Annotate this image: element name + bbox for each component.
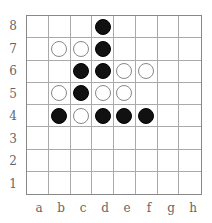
square-e7[interactable] — [114, 38, 136, 60]
square-f6[interactable] — [136, 61, 158, 83]
square-c4[interactable] — [71, 105, 93, 127]
square-c2[interactable] — [71, 150, 93, 172]
black-stone-icon — [95, 41, 111, 57]
square-a6[interactable] — [27, 61, 49, 83]
black-stone-icon — [73, 63, 89, 79]
file-label: c — [72, 201, 94, 215]
square-d7[interactable] — [92, 38, 114, 60]
square-g2[interactable] — [158, 150, 180, 172]
rank-label: 7 — [8, 42, 18, 56]
square-a7[interactable] — [27, 38, 49, 60]
rank-label: 8 — [8, 19, 18, 33]
white-stone-icon — [73, 108, 89, 124]
square-b7[interactable] — [49, 38, 71, 60]
square-h6[interactable] — [179, 61, 201, 83]
file-label: d — [94, 201, 116, 215]
square-b3[interactable] — [49, 127, 71, 149]
square-g6[interactable] — [158, 61, 180, 83]
square-b6[interactable] — [49, 61, 71, 83]
white-stone-icon — [51, 85, 67, 101]
black-stone-icon — [95, 19, 111, 35]
square-c5[interactable] — [71, 83, 93, 105]
square-f2[interactable] — [136, 150, 158, 172]
file-label: g — [160, 201, 182, 215]
square-c1[interactable] — [71, 172, 93, 194]
square-e1[interactable] — [114, 172, 136, 194]
square-a2[interactable] — [27, 150, 49, 172]
square-b8[interactable] — [49, 16, 71, 38]
square-a4[interactable] — [27, 105, 49, 127]
square-c8[interactable] — [71, 16, 93, 38]
square-d1[interactable] — [92, 172, 114, 194]
square-a8[interactable] — [27, 16, 49, 38]
white-stone-icon — [73, 41, 89, 57]
rank-label: 4 — [8, 109, 18, 123]
black-stone-icon — [116, 108, 132, 124]
square-e5[interactable] — [114, 83, 136, 105]
square-c3[interactable] — [71, 127, 93, 149]
rank-label: 1 — [8, 177, 18, 191]
square-c7[interactable] — [71, 38, 93, 60]
square-h1[interactable] — [179, 172, 201, 194]
square-a1[interactable] — [27, 172, 49, 194]
square-b4[interactable] — [49, 105, 71, 127]
file-label: b — [50, 201, 72, 215]
square-g5[interactable] — [158, 83, 180, 105]
square-f4[interactable] — [136, 105, 158, 127]
black-stone-icon — [51, 108, 67, 124]
square-a5[interactable] — [27, 83, 49, 105]
square-e4[interactable] — [114, 105, 136, 127]
game-board — [26, 15, 202, 195]
file-label: f — [138, 201, 160, 215]
file-label: a — [28, 201, 50, 215]
square-f5[interactable] — [136, 83, 158, 105]
square-g7[interactable] — [158, 38, 180, 60]
square-c6[interactable] — [71, 61, 93, 83]
square-h5[interactable] — [179, 83, 201, 105]
square-b5[interactable] — [49, 83, 71, 105]
black-stone-icon — [95, 108, 111, 124]
square-h8[interactable] — [179, 16, 201, 38]
rank-label: 2 — [8, 154, 18, 168]
square-g4[interactable] — [158, 105, 180, 127]
square-f7[interactable] — [136, 38, 158, 60]
white-stone-icon — [95, 85, 111, 101]
white-stone-icon — [138, 63, 154, 79]
square-h3[interactable] — [179, 127, 201, 149]
square-a3[interactable] — [27, 127, 49, 149]
black-stone-icon — [95, 63, 111, 79]
white-stone-icon — [116, 85, 132, 101]
square-d3[interactable] — [92, 127, 114, 149]
square-f3[interactable] — [136, 127, 158, 149]
square-g1[interactable] — [158, 172, 180, 194]
file-label: h — [182, 201, 204, 215]
rank-label: 3 — [8, 132, 18, 146]
square-e8[interactable] — [114, 16, 136, 38]
rank-label: 5 — [8, 87, 18, 101]
square-d4[interactable] — [92, 105, 114, 127]
black-stone-icon — [73, 85, 89, 101]
square-h7[interactable] — [179, 38, 201, 60]
square-g8[interactable] — [158, 16, 180, 38]
square-e3[interactable] — [114, 127, 136, 149]
square-b2[interactable] — [49, 150, 71, 172]
square-e2[interactable] — [114, 150, 136, 172]
rank-label: 6 — [8, 64, 18, 78]
square-d8[interactable] — [92, 16, 114, 38]
black-stone-icon — [138, 108, 154, 124]
square-e6[interactable] — [114, 61, 136, 83]
square-d5[interactable] — [92, 83, 114, 105]
white-stone-icon — [51, 41, 67, 57]
square-g3[interactable] — [158, 127, 180, 149]
square-h2[interactable] — [179, 150, 201, 172]
file-label: e — [116, 201, 138, 215]
white-stone-icon — [116, 63, 132, 79]
square-h4[interactable] — [179, 105, 201, 127]
square-b1[interactable] — [49, 172, 71, 194]
square-d6[interactable] — [92, 61, 114, 83]
square-f1[interactable] — [136, 172, 158, 194]
square-f8[interactable] — [136, 16, 158, 38]
square-d2[interactable] — [92, 150, 114, 172]
